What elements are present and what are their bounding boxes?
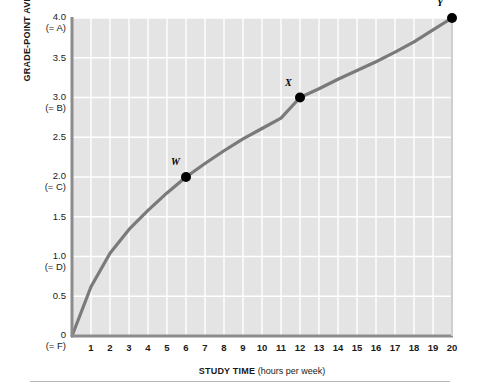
y-tick-grade: (= B) (24, 102, 66, 113)
x-axis-title-rest: (hours per week) (255, 366, 325, 376)
data-point-label-x: X (285, 77, 292, 88)
data-point-y[interactable] (447, 13, 457, 23)
y-tick-grade: (= D) (24, 261, 66, 272)
y-tick-2-0: 2.0(= C) (24, 170, 66, 192)
y-tick-value: 0 (24, 329, 66, 340)
y-tick-value: 1.5 (24, 211, 66, 222)
y-tick-grade: (= F) (24, 340, 66, 351)
bottom-divider (30, 381, 450, 382)
data-point-w[interactable] (181, 172, 191, 182)
y-tick-value: 1.0 (24, 250, 66, 261)
y-tick-1-0: 1.0(= D) (24, 250, 66, 272)
plot-area (0, 0, 480, 388)
y-axis-title: GRADE-POINT AVERAGE (22, 0, 32, 100)
x-tick-20: 20 (440, 342, 464, 353)
y-tick-value: 2.5 (24, 131, 66, 142)
y-tick-value: 0.5 (24, 290, 66, 301)
y-tick-1-5: 1.5 (24, 211, 66, 222)
y-tick-0: 0(= F) (24, 329, 66, 351)
x-axis-title-bold: STUDY TIME (199, 366, 255, 376)
data-point-label-w: W (171, 156, 180, 167)
y-tick-grade: (= C) (24, 181, 66, 192)
data-point-x[interactable] (295, 93, 305, 103)
y-tick-0-5: 0.5 (24, 290, 66, 301)
data-point-label-y: Y (437, 0, 443, 8)
y-tick-value: 2.0 (24, 170, 66, 181)
chart-figure: 4.0(= A)3.53.0(= B)2.52.0(= C)1.51.0(= D… (0, 0, 480, 388)
x-axis-title: STUDY TIME (hours per week) (72, 366, 452, 376)
y-tick-2-5: 2.5 (24, 131, 66, 142)
